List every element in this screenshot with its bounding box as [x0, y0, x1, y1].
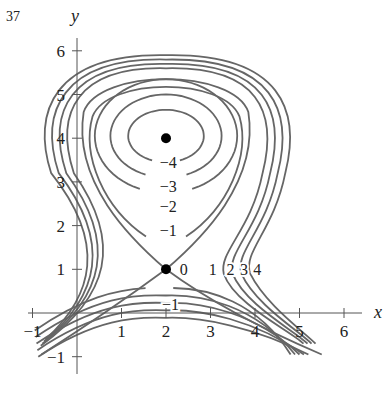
y-axis-label: y	[69, 6, 79, 26]
x-tick-label: −1	[23, 322, 41, 341]
contour-level-label: −2	[160, 198, 177, 215]
contour-level-label: −1	[162, 296, 179, 313]
y-tick-label: 6	[57, 42, 66, 61]
contour-plot: −1123456−1123456xy −4−3−2−101234−1	[0, 0, 384, 393]
contour-line	[41, 269, 166, 354]
contour-level-label: 1	[209, 261, 217, 278]
y-tick-label: 3	[57, 173, 66, 192]
x-tick-label: 4	[251, 322, 260, 341]
y-tick-label: 1	[57, 260, 66, 279]
contour-level-label: 0	[180, 261, 188, 278]
contour-level-label: 4	[253, 261, 261, 278]
x-tick-label: 6	[340, 322, 349, 341]
contour-level-label: −1	[160, 222, 177, 239]
critical-point	[161, 133, 171, 143]
y-tick-label: 2	[57, 217, 66, 236]
y-tick-label: 4	[57, 129, 66, 148]
y-tick-label: 5	[57, 86, 66, 105]
contour-line	[38, 318, 308, 357]
x-tick-label: 5	[295, 322, 304, 341]
contour-line	[82, 79, 249, 269]
contour-level-label: 3	[240, 261, 248, 278]
contour-level-label: 2	[227, 261, 235, 278]
contour-line	[45, 55, 316, 343]
x-tick-label: 3	[206, 322, 215, 341]
contour-level-label: −4	[160, 154, 177, 171]
y-tick-label: −1	[47, 348, 65, 367]
x-axis-label: x	[373, 302, 382, 322]
contour-level-label: −3	[160, 178, 177, 195]
x-tick-label: 2	[162, 322, 171, 341]
x-tick-label: 1	[117, 322, 126, 341]
critical-point	[161, 264, 171, 274]
